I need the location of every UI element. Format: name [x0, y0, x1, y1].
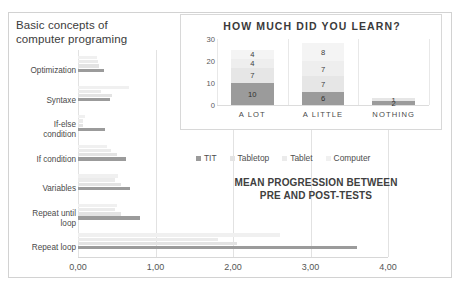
- bar-tablet: [78, 60, 98, 63]
- bar-tabletop: [78, 242, 237, 245]
- legend-label: TIT: [204, 153, 217, 163]
- bar-computer: [78, 204, 117, 207]
- bar-tabletop: [78, 212, 121, 215]
- screenshot-root: Basic concepts of computer programing Op…: [0, 0, 462, 292]
- inset-stacked-bar: 12: [372, 98, 414, 105]
- legend-swatch-icon: [230, 156, 235, 161]
- bar-computer: [78, 145, 107, 148]
- main-chart-category-axis: OptimizationSyntaxeIf-elseconditionIf co…: [10, 56, 76, 256]
- bar-tit: [78, 128, 105, 131]
- category-label: If condition: [10, 155, 76, 165]
- inset-stacked-bar: 8776: [302, 43, 344, 105]
- bar-computer: [78, 86, 129, 89]
- bar-tabletop: [78, 64, 99, 67]
- main-chart-subtitle-line1: MEAN PROGRESSION BETWEEN: [196, 176, 436, 189]
- inset-stacked-bar: 44710: [231, 50, 273, 105]
- value-axis-tick: 1,00: [147, 262, 165, 272]
- bar-tablet: [78, 149, 111, 152]
- category-label: Variables: [10, 184, 76, 194]
- inset-segment-value: 10: [231, 89, 273, 98]
- main-chart-subtitle: MEAN PROGRESSION BETWEEN PRE AND POST-TE…: [196, 176, 436, 202]
- legend-item: Computer: [326, 153, 371, 163]
- inset-segment-value: 2: [372, 98, 414, 107]
- bar-computer: [78, 233, 280, 236]
- inset-gridline: [288, 39, 289, 105]
- bar-tabletop: [78, 183, 121, 186]
- inset-segment-tit: 10: [231, 83, 273, 105]
- legend-item: TIT: [196, 153, 217, 163]
- inset-segment-tabletop: 7: [302, 76, 344, 91]
- inset-segment-value: 4: [231, 50, 273, 59]
- inset-segment-value: 4: [231, 59, 273, 68]
- legend-label: Computer: [334, 153, 371, 163]
- bar-computer: [78, 56, 97, 59]
- inset-segment-tabletop: 7: [231, 68, 273, 83]
- value-axis-tick: 2,00: [224, 262, 242, 272]
- main-chart-subtitle-line2: PRE AND POST-TESTS: [196, 189, 436, 202]
- bar-tablet: [78, 119, 83, 122]
- bar-tablet: [78, 238, 218, 241]
- bar-tit: [78, 246, 357, 249]
- legend-label: Tablet: [290, 153, 312, 163]
- category-label: Repeat loop: [10, 243, 76, 253]
- inset-y-tick: 10: [195, 79, 215, 88]
- bar-group: [78, 198, 388, 228]
- bar-tit: [78, 69, 104, 72]
- inset-segment-tablet: 4: [231, 59, 273, 68]
- value-axis-tick: 4,00: [379, 262, 397, 272]
- inset-gridline: [217, 39, 218, 105]
- legend-swatch-icon: [282, 156, 287, 161]
- inset-chart-plot-area: 44710877612: [217, 39, 429, 105]
- bar-computer: [78, 174, 118, 177]
- legend-item: Tablet: [282, 153, 312, 163]
- bar-computer: [78, 115, 85, 118]
- inset-segment-computer: 8: [302, 43, 344, 61]
- category-label: If-elsecondition: [10, 120, 76, 139]
- legend-item: Tabletop: [230, 153, 270, 163]
- main-chart-baseline: [78, 257, 388, 258]
- bar-tablet: [78, 178, 115, 181]
- inset-segment-value: 8: [302, 48, 344, 57]
- inset-y-tick: 20: [195, 57, 215, 66]
- inset-segment-value: 7: [302, 64, 344, 73]
- inset-x-label: A LITTLE: [303, 110, 343, 119]
- inset-segment-computer: 4: [231, 50, 273, 59]
- inset-segment-value: 6: [302, 94, 344, 103]
- inset-segment-tit: 2: [372, 101, 414, 105]
- bar-tabletop: [78, 153, 117, 156]
- inset-x-label: A LOT: [239, 110, 266, 119]
- inset-chart-title: HOW MUCH DID YOU LEARN?: [181, 20, 443, 32]
- main-chart-title: Basic concepts of computer programing: [16, 18, 166, 46]
- main-chart-title-line2: computer programing: [16, 32, 166, 46]
- value-axis-tick: 0,00: [69, 262, 87, 272]
- inset-segment-value: 7: [231, 71, 273, 80]
- inset-gridline: [429, 39, 430, 105]
- bar-tabletop: [78, 94, 112, 97]
- inset-x-label: NOTHING: [372, 110, 415, 119]
- bar-group: [78, 227, 388, 257]
- bar-tablet: [78, 208, 115, 211]
- bar-tit: [78, 187, 130, 190]
- inset-segment-tablet: 7: [302, 61, 344, 76]
- legend-swatch-icon: [326, 156, 331, 161]
- bar-tabletop: [78, 124, 83, 127]
- value-axis-tick: 3,00: [302, 262, 320, 272]
- legend-swatch-icon: [196, 156, 201, 161]
- bar-tit: [78, 157, 126, 160]
- inset-chart: HOW MUCH DID YOU LEARN? 44710877612 0102…: [180, 14, 442, 130]
- main-chart-legend: TITTabletopTabletComputer: [196, 152, 436, 164]
- inset-y-tick: 0: [195, 101, 215, 110]
- main-chart-title-line1: Basic concepts of: [16, 18, 166, 32]
- inset-y-tick: 30: [195, 35, 215, 44]
- bar-tit: [78, 98, 110, 101]
- bar-tit: [78, 216, 140, 219]
- inset-segment-tit: 6: [302, 92, 344, 105]
- main-chart-value-axis: 0,001,002,003,004,00: [78, 262, 398, 276]
- category-label: Optimization: [10, 66, 76, 76]
- legend-label: Tabletop: [238, 153, 270, 163]
- inset-segment-value: 7: [302, 80, 344, 89]
- category-label: Syntaxe: [10, 96, 76, 106]
- bar-tablet: [78, 90, 101, 93]
- inset-gridline: [358, 39, 359, 105]
- category-label: Repeat untilloop: [10, 209, 76, 228]
